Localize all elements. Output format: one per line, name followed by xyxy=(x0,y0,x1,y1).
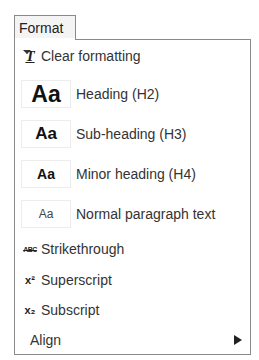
heading-h2-preview-icon: Aa xyxy=(21,80,71,108)
menu-item-subscript[interactable]: x₂ Subscript xyxy=(15,297,250,323)
menu-item-label: Align xyxy=(30,332,61,348)
menu-item-superscript[interactable]: x² Superscript xyxy=(15,267,250,293)
menu-item-strikethrough[interactable]: ABC Strikethrough xyxy=(15,236,250,262)
menu-item-label: Sub-heading (H3) xyxy=(76,126,187,142)
menu-item-heading-h2[interactable]: Aa Heading (H2) xyxy=(15,78,250,110)
menu-item-subheading-h3[interactable]: Aa Sub-heading (H3) xyxy=(15,118,250,150)
menu-item-label: Clear formatting xyxy=(41,48,141,64)
menu-item-label: Heading (H2) xyxy=(76,86,159,102)
caret-down-icon xyxy=(23,50,31,54)
strikethrough-icon: ABC xyxy=(21,246,39,253)
menu-item-clear-formatting[interactable]: T Clear formatting xyxy=(15,43,250,69)
paragraph-preview-icon: Aa xyxy=(21,200,71,228)
menu-item-label: Strikethrough xyxy=(41,241,124,257)
menu-item-label: Superscript xyxy=(41,272,112,288)
menu-item-normal-paragraph[interactable]: Aa Normal paragraph text xyxy=(15,198,250,230)
format-menu: T Clear formatting Aa Heading (H2) Aa Su… xyxy=(14,39,251,355)
heading-h4-preview-icon: Aa xyxy=(21,160,71,188)
heading-h3-preview-icon: Aa xyxy=(21,120,71,148)
menu-item-label: Minor heading (H4) xyxy=(76,166,196,182)
menu-item-label: Subscript xyxy=(41,302,99,318)
menu-item-align[interactable]: Align xyxy=(15,327,250,353)
subscript-icon: x₂ xyxy=(21,304,39,316)
format-dropdown-button[interactable]: Format xyxy=(14,15,76,40)
menu-tab-joint xyxy=(15,38,75,41)
superscript-icon: x² xyxy=(21,274,39,286)
menu-item-label: Normal paragraph text xyxy=(76,206,215,222)
submenu-arrow-icon xyxy=(234,335,242,345)
menu-item-minor-heading-h4[interactable]: Aa Minor heading (H4) xyxy=(15,158,250,190)
format-button-label: Format xyxy=(19,20,63,36)
